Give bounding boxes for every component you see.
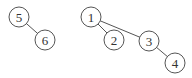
node-label: 2 [111, 33, 118, 48]
node-label: 3 [146, 34, 153, 49]
node-5: 5 [9, 7, 29, 27]
node-label: 1 [88, 10, 95, 25]
node-6: 6 [35, 30, 55, 50]
node-label: 4 [172, 56, 179, 71]
node-1: 1 [81, 7, 101, 27]
node-4: 4 [165, 53, 185, 73]
node-2: 2 [104, 30, 124, 50]
node-label: 5 [16, 10, 23, 25]
node-label: 6 [42, 33, 49, 48]
node-3: 3 [139, 31, 159, 51]
tree-diagram: 5 6 1 2 3 4 [0, 0, 192, 78]
